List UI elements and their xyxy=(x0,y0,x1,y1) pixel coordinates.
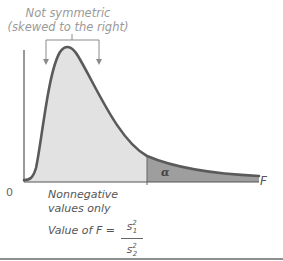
arrowhead-right-icon xyxy=(96,59,102,65)
variance-ratio-fraction: s21 s22 xyxy=(121,217,143,260)
skew-annotation-line2: (skewed to the right) xyxy=(4,21,132,34)
alpha-label: α xyxy=(161,166,169,179)
origin-label: 0 xyxy=(6,186,13,199)
skew-annotation-line1: Not symmetric xyxy=(4,7,132,20)
fraction-numerator: s21 xyxy=(121,217,143,237)
nonnegative-note-line1: Nonnegative xyxy=(48,188,118,201)
x-axis-label: F xyxy=(260,174,267,188)
fraction-bar xyxy=(121,238,143,239)
arrowhead-left-icon xyxy=(43,59,49,65)
nonnegative-note-line2: values only xyxy=(48,202,111,215)
fraction-denominator: s22 xyxy=(121,240,143,260)
f-formula-label: Value of F = xyxy=(48,224,115,237)
